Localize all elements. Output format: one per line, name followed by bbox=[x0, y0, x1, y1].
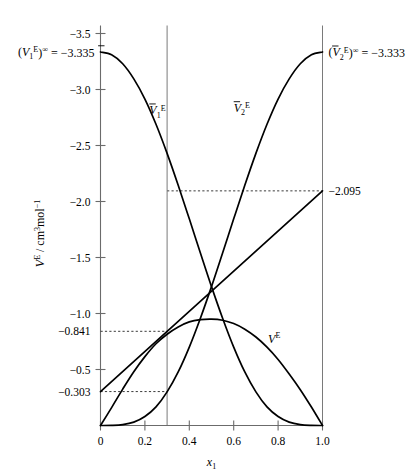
x-tick-label-0: 0 bbox=[98, 435, 104, 447]
curve-V1bar_E bbox=[101, 52, 323, 426]
x-tick-label-2: 0.4 bbox=[182, 435, 197, 447]
annotation-v2-infinite-dilution: (V2E)∞ = −3.333 bbox=[329, 45, 405, 62]
reference-vertical-lines bbox=[167, 26, 322, 426]
x-tick-label-1: 0.2 bbox=[138, 435, 153, 447]
annotation-v2-infinite-dilution-eq: = −3.333 bbox=[358, 46, 405, 60]
curve-label-V_E: VE bbox=[268, 331, 280, 346]
tangent-line bbox=[101, 191, 323, 392]
curve-V2bar_E bbox=[101, 52, 323, 426]
tangent-line bbox=[101, 191, 323, 392]
x-tick-label-3: 0.6 bbox=[227, 435, 242, 447]
y-special-tick-label--0.303: −0.303 bbox=[58, 386, 91, 398]
annotation-v1-infinite-dilution-eq: = −3.335 bbox=[48, 46, 95, 60]
curve-label-V2bar_E-sup: E bbox=[245, 101, 250, 110]
axis-ticks bbox=[96, 34, 323, 431]
excess-volume-figure: −3.5−3.0−2.5−2.0−1.5−1.0−0.5−0.841−0.303… bbox=[0, 0, 410, 476]
y-axis-title-slash: / cm bbox=[33, 230, 47, 255]
y-special-tick-label--0.841: −0.841 bbox=[58, 325, 91, 337]
y-tick-label-6: −0.5 bbox=[70, 364, 91, 376]
y-tick-label-2: −2.5 bbox=[70, 140, 91, 152]
y-axis-title-mol: mol bbox=[33, 208, 47, 227]
y-tick-label-0: −3.5 bbox=[70, 28, 91, 40]
tick-labels: −3.5−3.0−2.5−2.0−1.5−1.0−0.5−0.841−0.303… bbox=[58, 28, 330, 447]
y-axis-title: VE / cm3mol−1 bbox=[33, 200, 48, 267]
y-tick-label-5: −1.0 bbox=[70, 308, 91, 320]
curve-label-V2bar_E-text: V2E bbox=[234, 101, 250, 118]
curve-labels: V1EV2EVE bbox=[149, 101, 280, 346]
y-tick-label-3: −2.0 bbox=[70, 196, 91, 208]
curve-label-V1bar_E: V1E bbox=[149, 103, 165, 120]
y-tick-label-1: −3.0 bbox=[70, 84, 91, 96]
curve-V_E bbox=[101, 319, 323, 425]
x-tick-label-5: 1.0 bbox=[315, 435, 330, 447]
annotation-v1-infinite-dilution-text: (V1E)∞ = −3.335 bbox=[18, 45, 94, 62]
annotation-labels: (V1E)∞ = −3.335(V2E)∞ = −3.333−2.095 bbox=[18, 45, 405, 197]
curve-label-V2bar_E: V2E bbox=[234, 101, 250, 118]
curve-label-V1bar_E-text: V1E bbox=[149, 103, 165, 120]
axes-frame bbox=[101, 26, 323, 426]
y-axis-title-mol-sup: −1 bbox=[33, 200, 42, 209]
x-axis-title: x1 bbox=[206, 455, 216, 472]
chart-canvas: −3.5−3.0−2.5−2.0−1.5−1.0−0.5−0.841−0.303… bbox=[0, 0, 410, 476]
annotation-v2-infinite-dilution-text: (V2E)∞ = −3.333 bbox=[329, 45, 405, 62]
annotation-tangent-intercept-right: −2.095 bbox=[329, 185, 362, 197]
curve-label-V1bar_E-sup: E bbox=[161, 104, 166, 113]
annotation-v1-infinite-dilution: (V1E)∞ = −3.335 bbox=[18, 45, 104, 62]
y-tick-label-4: −1.5 bbox=[70, 252, 91, 264]
x-axis-title-sub: 1 bbox=[212, 462, 216, 471]
data-curves bbox=[101, 52, 323, 426]
curve-label-VE-sup: E bbox=[275, 331, 280, 340]
x-tick-label-4: 0.8 bbox=[271, 435, 286, 447]
y-axis-title-text: VE / cm3mol−1 bbox=[33, 200, 48, 267]
